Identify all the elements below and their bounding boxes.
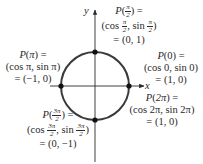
- point-p-0: [126, 83, 131, 88]
- label-p-3pi-over-2: P(3π2) = (cos 3π2, sin 3π2) = (0, −1): [20, 108, 96, 150]
- label-p-pi-over-2: P(π2) = (cos π2, sin π2) = (0, 1): [98, 4, 160, 46]
- point-p-pi-over-2: [92, 49, 97, 54]
- label-p-2pi: P(2π) = (cos 2π, sin 2π) = (1, 0): [122, 92, 202, 128]
- y-axis-label: y: [84, 5, 89, 17]
- label-p-0: P(0) = (cos 0, sin 0) = (1, 0): [139, 50, 203, 86]
- label-p-pi: P(π) = (cos π, sin π) = (−1, 0): [2, 49, 64, 85]
